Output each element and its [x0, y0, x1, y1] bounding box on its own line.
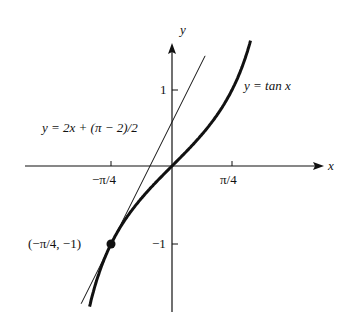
y-axis-label: y [180, 22, 186, 38]
tangent-line-figure: y x −π/4 π/4 1 −1 y = tan x y = 2x + (π … [0, 0, 344, 323]
tick-label-neg-one: −1 [152, 236, 166, 252]
plot-area [0, 0, 344, 323]
tick-label-neg-pi-4: −π/4 [92, 172, 116, 188]
tick-label-pi-4: π/4 [220, 172, 237, 188]
curve-label: y = tan x [244, 78, 291, 94]
tick-label-one: 1 [160, 82, 167, 98]
point-label: (−π/4, −1) [28, 236, 81, 252]
tangent-point [107, 240, 116, 249]
tangent-label: y = 2x + (π − 2)/2 [42, 120, 138, 136]
x-axis-label: x [328, 158, 334, 174]
